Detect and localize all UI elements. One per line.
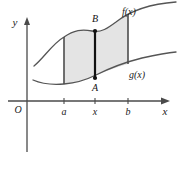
tick-label-b: b [126, 106, 131, 117]
point-b-marker [93, 29, 97, 33]
tick-label-a: a [62, 106, 67, 117]
origin-label: O [14, 104, 21, 115]
y-axis-label: y [12, 16, 18, 28]
point-a-marker [93, 76, 97, 80]
curve-label-g: g(x) [129, 69, 146, 81]
point-label-a: A [91, 82, 99, 93]
point-label-b: B [92, 13, 98, 24]
tick-label-x: x [92, 106, 98, 117]
area-between-curves-diagram: a x b y x O f(x) g(x) B A [0, 0, 179, 178]
curve-label-f: f(x) [122, 6, 137, 18]
x-axis-label: x [162, 105, 168, 117]
